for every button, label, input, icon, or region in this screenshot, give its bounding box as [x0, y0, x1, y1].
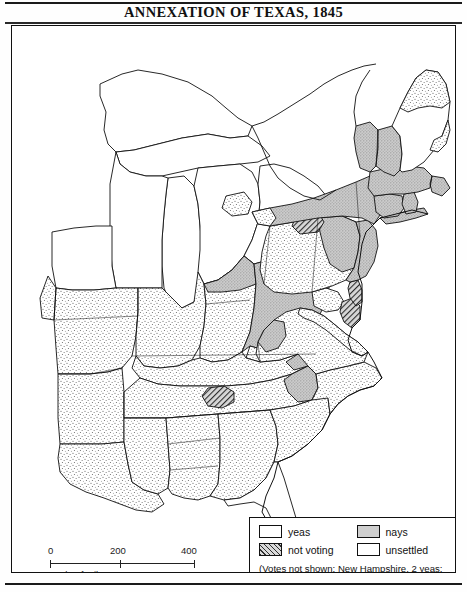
legend-note: (Votes not shown: New Hampshire, 2 yeas;…: [259, 563, 448, 573]
legend-label-not-voting: not voting: [288, 544, 351, 556]
scale-tick-mark-1: [120, 560, 121, 568]
scale-tick-0: 0: [48, 545, 53, 556]
title-rule-bottom: [5, 22, 462, 24]
legend-entries: yeas nays not voting unsettled: [259, 525, 448, 556]
region-connecticut: [374, 194, 404, 218]
scale-tick-labels: 0 200 400: [48, 545, 206, 558]
map-legend: yeas nays not voting unsettled (Votes no…: [249, 517, 456, 573]
legend-label-nays: nays: [386, 526, 449, 538]
region-arkansas: [58, 368, 124, 444]
region-vermont: [354, 122, 378, 172]
legend-swatch-unsettled: [357, 543, 380, 556]
scale-tick-mark-0: [50, 560, 51, 568]
scale-bar-rule: [50, 563, 195, 564]
map-frame: 0 200 400 Scale of miles yeas nays not v…: [11, 25, 456, 573]
bottom-rule: [5, 583, 462, 585]
region-iowa-territory: [52, 226, 116, 290]
map-page: ANNEXATION OF TEXAS, 1845: [0, 0, 467, 592]
boundary-lake-champlain: [354, 70, 370, 126]
scale-bar: 0 200 400 Scale of miles: [48, 545, 206, 573]
legend-label-yeas: yeas: [288, 526, 351, 538]
legend-swatch-yeas: [259, 525, 282, 538]
page-title: ANNEXATION OF TEXAS, 1845: [0, 4, 467, 21]
legend-label-unsettled: unsettled: [386, 544, 449, 556]
scale-caption: Scale of miles: [48, 569, 206, 573]
boundary-canada: [252, 64, 376, 126]
legend-swatch-nays: [357, 525, 380, 538]
legend-swatch-not-voting: [259, 543, 282, 556]
scale-tick-1: 200: [110, 545, 126, 556]
annexation-vote-map: [12, 26, 454, 571]
region-missouri: [40, 276, 138, 374]
region-alabama: [166, 414, 220, 500]
region-tennessee-central-district: [202, 386, 234, 408]
scale-tick-2: 400: [181, 545, 197, 556]
scale-tick-mark-2: [194, 560, 195, 568]
scale-bar-line: [48, 559, 206, 568]
